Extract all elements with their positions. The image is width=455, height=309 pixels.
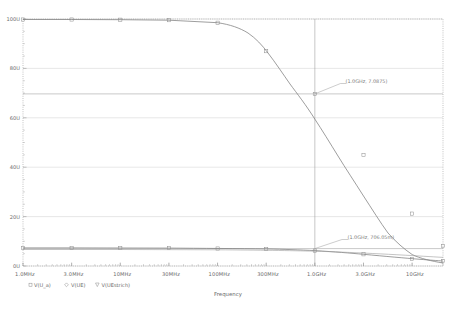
annotation-lower-text: (1.0GHz, 706.05m) [348,234,395,240]
x-tick-label: 3.0GHz [356,271,376,277]
legend-label-v-uestrich[interactable]: V(UEstrich) [102,282,131,288]
y-tick-label: 100U [7,16,21,22]
legend-symbol-triangle-down [96,283,100,287]
legend-symbol-diamond [65,283,69,287]
x-tick-label: 10GHz [406,271,424,277]
horizontal-gridlines [23,19,443,266]
cursor-lines[interactable] [23,19,443,266]
x-major-ticks [23,263,412,267]
trace-v-uestrich [23,250,443,258]
x-tick-label: 1.0GHz [307,271,327,277]
trace-v-u-a [23,20,443,264]
annotation-lower: (1.0GHz, 706.05m) [315,234,394,249]
frequency-response-plot: 100U 80U 60U 40U 20U 0U 1.0MHz 3.0MHz 10… [0,0,455,309]
trace-v-u-a-markers [21,18,444,248]
y-tick-label: 80U [10,65,20,71]
y-tick-label: 20U [10,214,20,220]
x-minor-ticks [23,263,443,266]
y-tick-label: 0U [13,263,20,269]
y-tick-label: 60U [10,115,20,121]
y-tick-label: 40U [10,164,20,170]
x-tick-label: 300MHz [257,271,279,277]
x-tick-label: 30MHz [162,271,180,277]
legend-symbol-square [29,283,32,286]
annotation-upper-text: (1.0GHz, 7.0875) [346,78,388,84]
annotation-upper: (1.0GHz, 7.0875) [315,78,388,94]
legend[interactable]: V(U_a) V(UE) V(UEstrich) [29,282,130,289]
x-tick-label: 1.0MHz [15,271,35,277]
x-axis-tick-labels: 1.0MHz 3.0MHz 10MHz 30MHz 100MHz 300MHz … [15,271,424,277]
y-axis-tick-labels: 100U 80U 60U 40U 20U 0U [7,16,21,269]
legend-label-v-ue[interactable]: V(UE) [71,282,85,288]
x-tick-label: 100MHz [209,271,231,277]
plot-frame [23,19,443,266]
x-tick-label: 10MHz [113,271,131,277]
legend-label-v-u-a[interactable]: V(U_a) [34,282,51,289]
x-axis-title: Frequency [214,291,243,298]
x-tick-label: 3.0MHz [64,271,84,277]
plot-canvas: 100U 80U 60U 40U 20U 0U 1.0MHz 3.0MHz 10… [0,0,455,309]
y-minor-ticks [23,31,25,253]
